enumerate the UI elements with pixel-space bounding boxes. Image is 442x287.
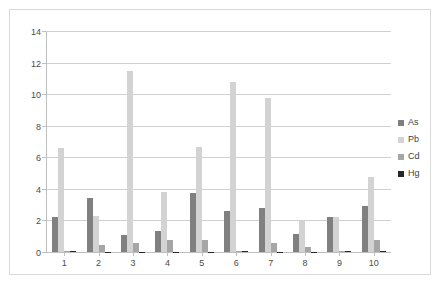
x-axis-tick-label: 5 [185, 259, 219, 268]
x-axis-tick-label: 4 [150, 259, 184, 268]
x-axis-tick-mark [305, 252, 306, 256]
x-axis-tick-label: 1 [47, 259, 81, 268]
legend-label: Cd [408, 152, 420, 161]
y-axis-tick-label: 8 [36, 122, 41, 131]
bar-groups: 12345678910 [47, 32, 391, 252]
legend-item-hg[interactable]: Hg [398, 165, 438, 182]
bar-group: 6 [219, 32, 253, 252]
y-axis-tick-label: 14 [31, 28, 41, 37]
legend-swatch-icon [398, 120, 404, 126]
x-axis-tick-mark [271, 252, 272, 256]
plot-region: 02468101214 12345678910 [46, 32, 391, 253]
x-axis-tick-label: 10 [357, 259, 391, 268]
bar-pb[interactable] [230, 82, 236, 253]
bar-group: 4 [150, 32, 184, 252]
y-axis-tick-label: 12 [31, 59, 41, 68]
x-axis-tick-mark [167, 252, 168, 256]
legend-swatch-icon [398, 137, 404, 143]
legend-item-pb[interactable]: Pb [398, 131, 438, 148]
y-axis-tick-label: 6 [36, 154, 41, 163]
bar-pb[interactable] [196, 147, 202, 252]
bar-pb[interactable] [58, 148, 64, 252]
bar-group: 8 [288, 32, 322, 252]
bar-hg[interactable] [242, 251, 248, 252]
x-axis-tick-label: 2 [81, 259, 115, 268]
x-axis-tick-label: 7 [253, 259, 287, 268]
x-axis-tick-mark [64, 252, 65, 256]
legend-label: Pb [408, 135, 419, 144]
bar-cd[interactable] [167, 240, 173, 252]
x-axis-tick-mark [339, 252, 340, 256]
x-axis-tick-mark [374, 252, 375, 256]
y-axis-tick-label: 4 [36, 185, 41, 194]
bar-cd[interactable] [271, 243, 277, 252]
bar-group: 7 [253, 32, 287, 252]
bar-cd[interactable] [374, 240, 380, 252]
legend-label: As [408, 118, 419, 127]
y-axis-tick-label: 0 [36, 249, 41, 258]
bar-group: 3 [116, 32, 150, 252]
bar-hg[interactable] [345, 251, 351, 252]
bar-pb[interactable] [127, 71, 133, 253]
legend-item-cd[interactable]: Cd [398, 148, 438, 165]
bar-group: 9 [322, 32, 356, 252]
bar-group: 2 [81, 32, 115, 252]
legend-label: Hg [408, 169, 420, 178]
x-axis-tick-mark [236, 252, 237, 256]
bar-hg[interactable] [380, 251, 386, 252]
x-axis-tick-mark [202, 252, 203, 256]
bar-group: 10 [357, 32, 391, 252]
y-axis-tick-label: 2 [36, 217, 41, 226]
x-axis-tick-mark [133, 252, 134, 256]
x-axis-tick-label: 8 [288, 259, 322, 268]
bar-hg[interactable] [70, 251, 76, 252]
x-axis-tick-label: 3 [116, 259, 150, 268]
x-axis-tick-label: 9 [322, 259, 356, 268]
chart-frame: 02468101214 12345678910 AsPbCdHg [9, 9, 431, 275]
x-axis-tick-label: 6 [219, 259, 253, 268]
bar-pb[interactable] [265, 98, 271, 252]
bar-group: 1 [47, 32, 81, 252]
chart-legend: AsPbCdHg [398, 114, 438, 182]
bar-pb[interactable] [333, 217, 339, 252]
bar-cd[interactable] [202, 240, 208, 252]
x-axis-tick-mark [99, 252, 100, 256]
y-axis-tick-label: 10 [31, 91, 41, 100]
bar-group: 5 [185, 32, 219, 252]
legend-swatch-icon [398, 154, 404, 160]
legend-swatch-icon [398, 171, 404, 177]
legend-item-as[interactable]: As [398, 114, 438, 131]
